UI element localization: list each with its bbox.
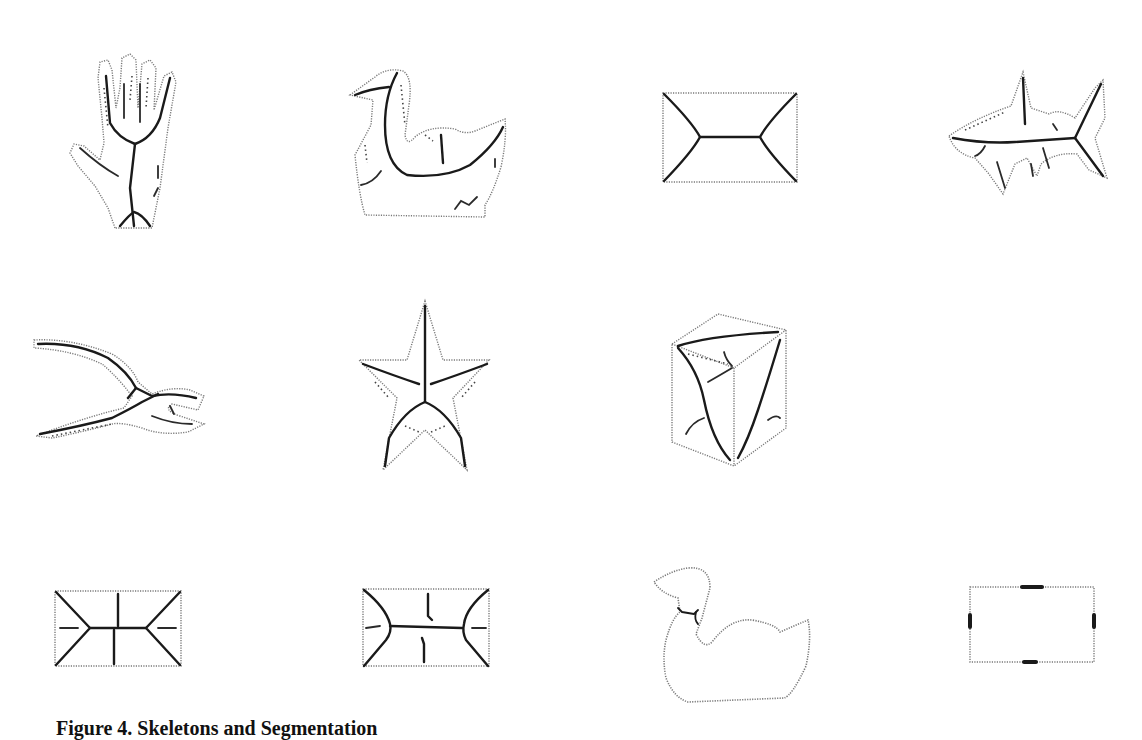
panel-pliers bbox=[32, 332, 212, 442]
panel-shark bbox=[945, 68, 1110, 198]
panel-duck bbox=[345, 55, 510, 220]
panel-cube bbox=[668, 310, 793, 470]
rectangle-spur-skeleton-icon bbox=[362, 588, 490, 668]
panel-rectangle-segmented-2 bbox=[362, 588, 490, 668]
figure-caption: Figure 4. Skeletons and Segmentation bbox=[56, 717, 377, 740]
segment-marker-left bbox=[968, 613, 972, 629]
segment-marker-top bbox=[1020, 585, 1044, 589]
star-skeleton-icon bbox=[355, 298, 495, 473]
panel-star bbox=[355, 298, 495, 473]
panel-duck-outline bbox=[652, 568, 822, 708]
rectangle-spur-skeleton-icon bbox=[54, 590, 182, 668]
panel-rectangle-segmented-1 bbox=[54, 590, 182, 668]
rectangle-skeleton-icon bbox=[662, 92, 798, 184]
rectangle-segmentation-icon bbox=[968, 585, 1096, 665]
segment-marker-bottom bbox=[1022, 660, 1038, 664]
hand-skeleton-icon bbox=[60, 48, 180, 233]
pliers-skeleton-icon bbox=[32, 332, 212, 442]
segment-marker-right bbox=[1092, 613, 1096, 629]
panel-rectangle bbox=[662, 92, 798, 184]
duck-outline-icon bbox=[652, 568, 822, 708]
cube-skeleton-icon bbox=[668, 310, 793, 470]
panel-rectangle-markers bbox=[968, 585, 1096, 665]
panel-hand bbox=[60, 48, 180, 233]
duck-skeleton-icon bbox=[345, 55, 510, 220]
shark-skeleton-icon bbox=[945, 68, 1110, 198]
